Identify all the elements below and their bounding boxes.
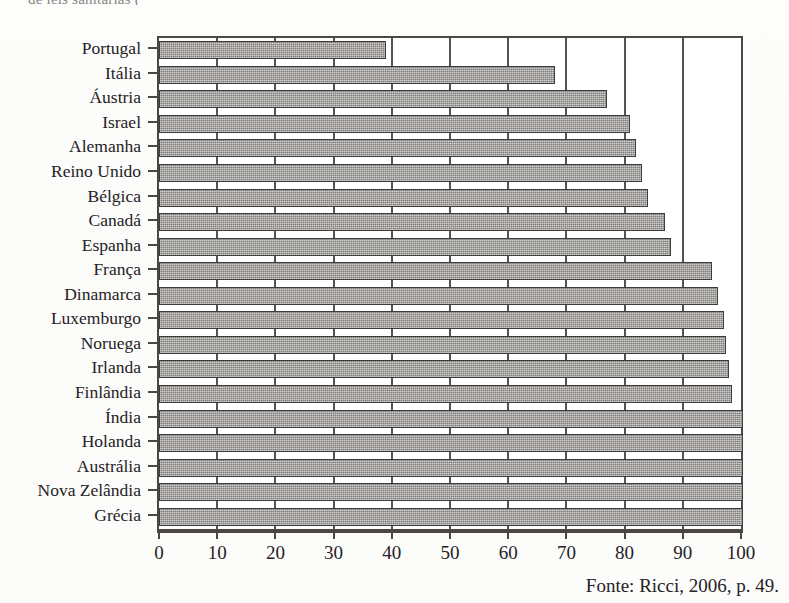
y-axis-label: Itália [105,64,141,82]
y-axis-label: Grécia [94,506,141,524]
y-axis-label: Israel [102,113,141,131]
y-axis-label: Luxemburgo [51,309,141,327]
bar-row [159,115,741,133]
x-axis-tick [158,531,160,539]
y-axis-tick [148,72,157,74]
bar-row [159,139,741,157]
y-axis-label: Noruega [81,334,141,352]
y-axis-tick [148,268,157,270]
x-axis-tick [624,531,626,539]
bar-row [159,90,741,108]
gridline-20 [274,38,276,529]
x-axis-tick [216,531,218,539]
x-axis-tick [274,531,276,539]
bar-dinamarca [159,287,718,305]
bar-row [159,434,741,452]
x-axis-label: 40 [382,542,401,564]
bar-israel [159,115,630,133]
bar-nova-zelândia [159,483,743,501]
bar-row [159,66,741,84]
y-axis-label: Austrália [77,457,141,475]
y-axis-tick [148,416,157,418]
bar-row [159,311,741,329]
bar-row [159,508,741,526]
x-axis-label: 0 [154,542,164,564]
x-axis-label: 70 [557,542,576,564]
bar-canadá [159,213,665,231]
bar-row [159,360,741,378]
bar-row [159,213,741,231]
y-axis-tick [148,342,157,344]
bar-row [159,385,741,403]
bar-bélgica [159,189,648,207]
y-axis-label: Portugal [82,39,141,57]
bar-luxemburgo [159,311,724,329]
x-axis-tick [391,531,393,539]
y-axis-tick [148,170,157,172]
gridline-60 [507,38,509,529]
gridline-90 [682,38,684,529]
gridline-70 [565,38,567,529]
y-axis-label: Holanda [82,432,141,450]
bar-holanda [159,434,743,452]
source-note: Fonte: Ricci, 2006, p. 49. [586,575,779,597]
x-axis-label: 90 [673,542,692,564]
y-axis-label: Irlanda [91,358,141,376]
horizontal-bar-chart: PortugalItáliaÁustriaIsraelAlemanhaReino… [0,0,789,603]
y-axis-tick [148,145,157,147]
gridline-30 [333,38,335,529]
bar-alemanha [159,139,636,157]
bar-portugal [159,41,386,59]
y-axis-tick [148,465,157,467]
y-axis-label: Bélgica [88,187,141,205]
plot-area [157,36,743,531]
y-axis-tick [148,219,157,221]
y-axis-tick [148,96,157,98]
bar-row [159,189,741,207]
y-axis-labels: PortugalItáliaÁustriaIsraelAlemanhaReino… [0,36,150,531]
bar-row [159,238,741,256]
y-axis-label: Reino Unido [51,162,141,180]
x-axis-tick [740,531,742,539]
y-axis-label: Espanha [82,236,141,254]
bar-row [159,164,741,182]
bar-row [159,287,741,305]
y-axis-tick [148,440,157,442]
gridline-50 [449,38,451,529]
bar-noruega [159,336,726,354]
bar-frança [159,262,712,280]
x-axis-tick [565,531,567,539]
y-axis-tick [148,514,157,516]
y-axis-tick [148,489,157,491]
y-axis-tick [148,244,157,246]
y-axis-label: Áustria [89,88,141,106]
y-axis-label: Canadá [89,211,141,229]
y-axis-label: Finlândia [75,383,141,401]
bar-row [159,459,741,477]
bar-itália [159,66,555,84]
gridline-40 [391,38,393,529]
y-axis-tick [148,317,157,319]
y-axis-tick [148,121,157,123]
x-axis-tick [333,531,335,539]
bar-row [159,262,741,280]
bar-austrália [159,459,743,477]
bar-índia [159,410,743,428]
y-axis-label: Alemanha [69,137,141,155]
y-axis-label: Nova Zelândia [38,481,142,499]
x-axis-tick [682,531,684,539]
x-axis-tick [449,531,451,539]
bar-row [159,410,741,428]
bar-row [159,41,741,59]
x-axis-label: 100 [727,542,756,564]
x-axis-label: 30 [324,542,343,564]
bar-row [159,336,741,354]
bar-áustria [159,90,607,108]
y-axis-tick [148,293,157,295]
x-axis-tick [507,531,509,539]
x-axis-label: 60 [499,542,518,564]
y-axis-tick [148,391,157,393]
gridline-80 [624,38,626,529]
y-axis-tick [148,195,157,197]
bar-reino-unido [159,164,642,182]
